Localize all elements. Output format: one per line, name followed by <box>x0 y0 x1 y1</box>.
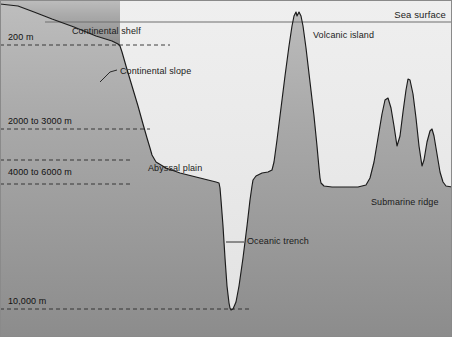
feature-label-oceanic-trench: Oceanic trench <box>247 237 309 246</box>
feature-label-continental-slope: Continental slope <box>120 67 191 76</box>
depth-label: 200 m <box>8 33 34 42</box>
depth-label: 2000 to 3000 m <box>8 117 72 126</box>
sea-surface-label: Sea surface <box>394 10 446 20</box>
depth-label: 4000 to 6000 m <box>8 168 72 177</box>
ocean-profile-diagram: Sea surface 200 m2000 to 3000 m4000 to 6… <box>0 0 452 337</box>
feature-label-continental-shelf: Continental shelf <box>72 27 141 36</box>
depth-label: 10,000 m <box>8 297 46 306</box>
feature-label-volcanic-island: Volcanic island <box>313 31 374 40</box>
feature-label-submarine-ridge: Submarine ridge <box>371 198 439 207</box>
feature-label-abyssal-plain: Abyssal plain <box>148 164 202 173</box>
